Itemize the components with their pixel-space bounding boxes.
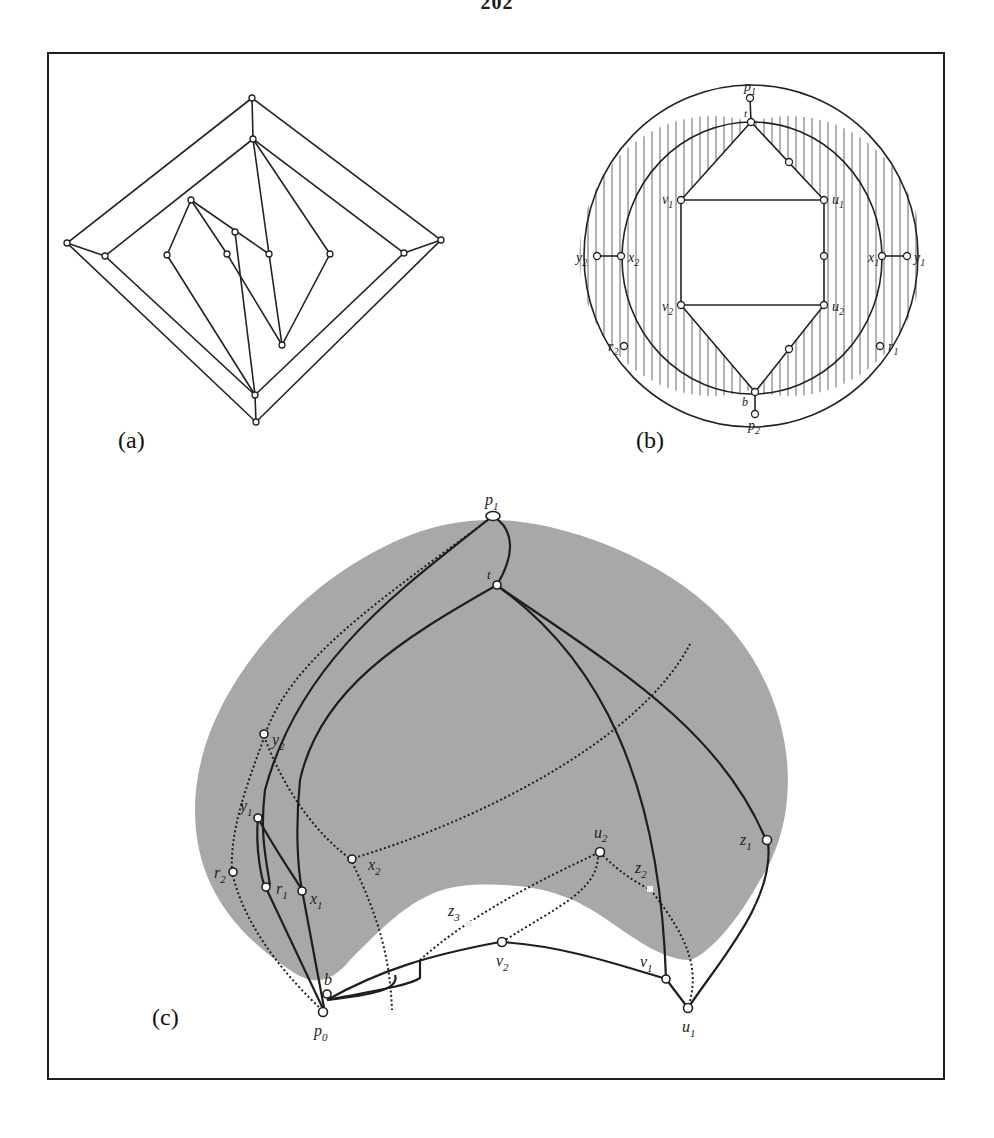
- point-z3: [466, 921, 472, 927]
- vertex-y1: [254, 814, 262, 822]
- panel-a-graph: [67, 98, 441, 422]
- svg-text:t: t: [487, 567, 491, 582]
- vertex-p0: [319, 1008, 328, 1017]
- vertex-v1: [662, 975, 670, 983]
- vertex-y2: [260, 730, 268, 738]
- caption-a: (a): [118, 427, 145, 453]
- vertex-r1: [262, 883, 270, 891]
- svg-text:p1: p1: [484, 491, 499, 512]
- vertex-x2: [348, 855, 356, 863]
- figure-canvas: (a) p1 t v1: [0, 0, 994, 1138]
- vertex-p1: [486, 512, 500, 521]
- vertex-t: [493, 581, 501, 589]
- svg-text:u1: u1: [682, 1018, 696, 1039]
- svg-text:p0: p0: [313, 1022, 328, 1043]
- vertex-b: [323, 990, 331, 998]
- svg-text:p2: p2: [747, 418, 760, 436]
- point-z2: [647, 886, 653, 892]
- svg-text:t: t: [744, 107, 748, 119]
- caption-c: (c): [152, 1004, 179, 1030]
- svg-text:b: b: [324, 971, 332, 988]
- vertex-v2: [498, 938, 507, 947]
- svg-text:z3: z3: [447, 902, 460, 923]
- vertex-r2: [229, 868, 237, 876]
- caption-b: (b): [636, 427, 664, 453]
- vertex-z1: [763, 836, 772, 845]
- vertex-u1: [684, 1004, 693, 1013]
- vertex-x1: [298, 887, 306, 895]
- svg-text:r1: r1: [888, 339, 898, 357]
- svg-text:b: b: [742, 395, 748, 409]
- vertex-u2: [596, 848, 605, 857]
- svg-text:v2: v2: [496, 952, 509, 973]
